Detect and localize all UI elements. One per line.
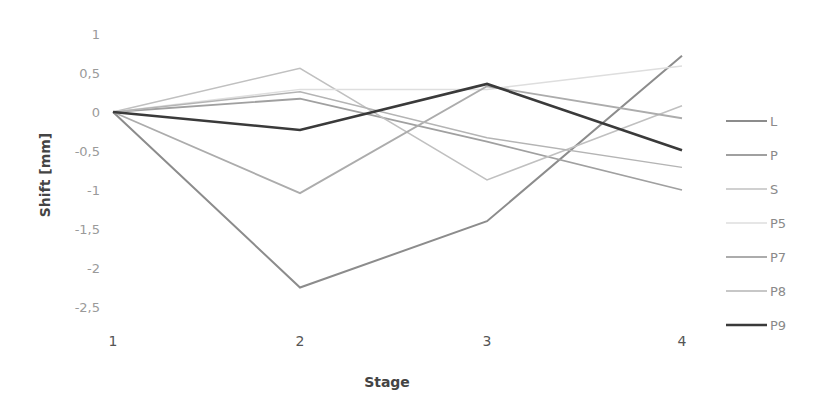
y-tick-label: 1	[92, 27, 100, 42]
legend-label: P5	[770, 216, 786, 231]
legend-item-l: L	[726, 114, 778, 129]
y-axis-ticks: 10,50-0,5-1-1,5-2-2,5	[75, 27, 100, 315]
legend-item-p: P	[726, 148, 778, 163]
y-tick-label: 0,5	[79, 66, 100, 81]
x-axis-ticks: 1234	[109, 333, 687, 349]
y-tick-label: -1,5	[75, 222, 100, 237]
legend-label: P7	[770, 250, 786, 265]
legend-label: L	[770, 114, 778, 129]
y-tick-label: -1	[87, 183, 100, 198]
x-tick-label: 3	[483, 333, 492, 349]
x-tick-label: 4	[678, 333, 687, 349]
chart-series	[113, 56, 682, 288]
series-line-l	[113, 56, 682, 288]
x-tick-label: 2	[296, 333, 305, 349]
legend-item-p8: P8	[726, 284, 786, 299]
legend-label: P	[770, 148, 778, 163]
series-line-p9	[113, 84, 682, 150]
chart-legend: LPSP5P7P8P9	[726, 114, 786, 333]
y-axis-title: Shift [mm]	[37, 133, 53, 217]
line-chart: 10,50-0,5-1-1,5-2-2,5 1234 LPSP5P7P8P9 S…	[0, 0, 817, 417]
legend-label: S	[770, 182, 778, 197]
y-tick-label: 0	[92, 105, 100, 120]
series-line-s	[113, 68, 682, 180]
series-line-p	[113, 99, 682, 190]
legend-item-p7: P7	[726, 250, 786, 265]
legend-label: P9	[770, 318, 786, 333]
legend-label: P8	[770, 284, 786, 299]
y-tick-label: -2,5	[75, 300, 100, 315]
legend-item-p5: P5	[726, 216, 786, 231]
x-axis-title: Stage	[364, 374, 410, 390]
x-tick-label: 1	[109, 333, 118, 349]
legend-item-s: S	[726, 182, 778, 197]
y-tick-label: -2	[87, 261, 100, 276]
legend-item-p9: P9	[726, 318, 786, 333]
y-tick-label: -0,5	[75, 144, 100, 159]
series-line-p8	[113, 92, 682, 168]
